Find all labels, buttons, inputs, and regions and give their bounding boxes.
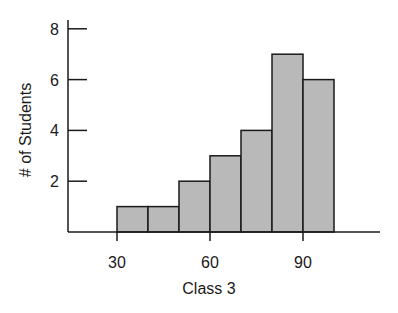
histogram-bar: [210, 156, 241, 232]
x-tick-label: 60: [201, 254, 219, 271]
histogram-chart: 2468 306090 Class 3 # of Students: [0, 0, 398, 313]
histogram-bar: [272, 54, 303, 232]
y-tick-label: 8: [50, 21, 59, 38]
y-tick-label: 2: [50, 173, 59, 190]
x-axis-ticks: 306090: [108, 232, 312, 271]
y-tick-label: 6: [50, 72, 59, 89]
x-tick-label: 90: [294, 254, 312, 271]
histogram-bar: [241, 130, 272, 232]
histogram-bar: [148, 207, 179, 232]
histogram-bar: [303, 80, 334, 232]
histogram-bars: [117, 54, 334, 232]
histogram-bar: [117, 207, 148, 232]
x-axis-title: Class 3: [182, 280, 235, 297]
x-tick-label: 30: [108, 254, 126, 271]
histogram-bar: [179, 181, 210, 232]
y-axis-title: # of Students: [17, 83, 34, 177]
y-tick-label: 4: [50, 122, 59, 139]
